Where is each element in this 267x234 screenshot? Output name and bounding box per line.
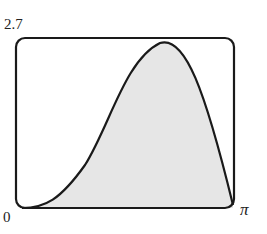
x-min-label: 0 [3, 209, 11, 226]
x-max-label: π [240, 200, 249, 220]
shaded-area [22, 42, 233, 208]
chart-plot [0, 0, 267, 234]
y-max-label: 2.7 [4, 16, 23, 33]
